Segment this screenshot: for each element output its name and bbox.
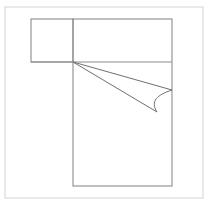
blanket-fold-arc [154, 90, 172, 112]
blanket-fold-line-lower [73, 62, 157, 112]
plan-canvas [0, 0, 211, 205]
blanket-fold-line-upper [73, 62, 172, 90]
nightstand-rect [31, 19, 73, 62]
floor-plan-drawing [0, 0, 211, 205]
outer-frame [5, 7, 203, 198]
bed-rect [73, 19, 172, 186]
